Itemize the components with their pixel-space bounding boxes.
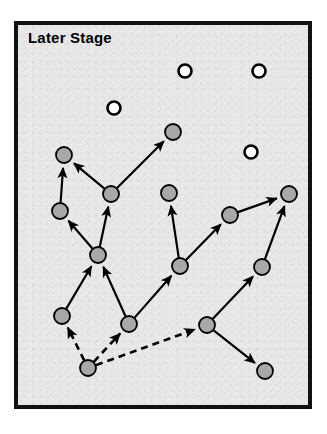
panel-title: Later Stage bbox=[28, 29, 112, 46]
later-stage-panel: Later Stage bbox=[14, 21, 312, 409]
paper-texture bbox=[18, 25, 308, 405]
diagram-page: Later Stage bbox=[0, 0, 327, 434]
